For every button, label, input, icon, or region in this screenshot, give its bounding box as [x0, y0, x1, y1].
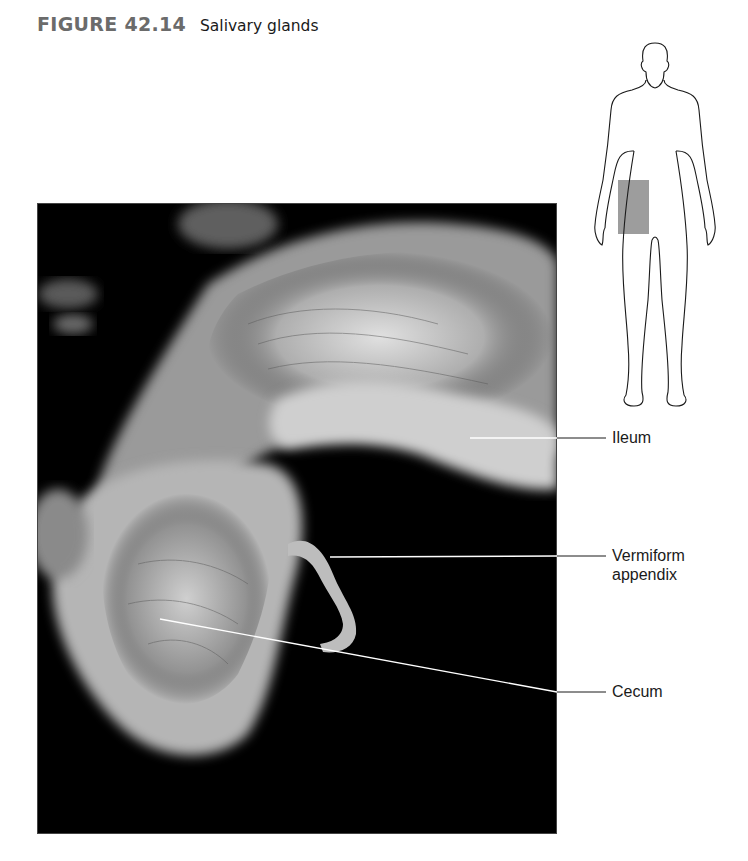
body-outline-icon [595, 43, 715, 406]
label-ileum-text: Ileum [612, 429, 651, 446]
label-cecum-text: Cecum [612, 683, 663, 700]
body-orientation-diagram [580, 30, 730, 420]
label-appendix-line2: appendix [612, 565, 685, 584]
dissection-photo-art [38, 204, 557, 834]
figure-number: FIGURE 42.14 [37, 13, 186, 35]
dissection-photo [37, 203, 557, 834]
figure-caption: Salivary glands [200, 17, 318, 35]
label-ileum: Ileum [612, 428, 651, 447]
label-appendix-line1: Vermiform [612, 546, 685, 565]
label-cecum: Cecum [612, 682, 663, 701]
highlight-region [618, 180, 649, 234]
label-vermiform-appendix: Vermiform appendix [612, 546, 685, 584]
figure-title: FIGURE 42.14 Salivary glands [37, 13, 318, 39]
